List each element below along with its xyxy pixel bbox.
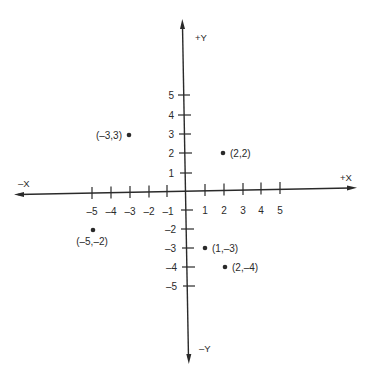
x-axis-right-arrow-icon (347, 186, 357, 191)
x-tick-label: 4 (258, 205, 264, 216)
y-tick-label: 2 (168, 148, 174, 159)
point-dot-icon (91, 228, 96, 233)
point-dot-icon (221, 151, 226, 156)
pos-y-axis-label: +Y (195, 32, 208, 43)
y-tick-label: –2 (165, 224, 177, 235)
coordinate-plane: –5 –4 –3 –2 –1 1 2 3 4 5 5 4 3 2 1 –2 –3… (0, 0, 371, 377)
point-label: (–3,3) (96, 130, 122, 141)
x-tick-label: 5 (277, 205, 283, 216)
point-1-neg3: (1,–3) (203, 243, 238, 254)
x-tick-label: –1 (162, 206, 174, 217)
x-tick-label: 1 (202, 205, 208, 216)
y-tick-label: 1 (168, 168, 174, 179)
neg-y-axis-label: –Y (199, 343, 211, 354)
point-dot-icon (203, 246, 208, 251)
y-tick-label: 4 (168, 110, 174, 121)
y-tick-label: –4 (166, 262, 178, 273)
x-tick-label: 2 (221, 205, 227, 216)
x-axis-left-arrow-icon (14, 192, 24, 197)
neg-x-axis-label: –X (18, 178, 30, 189)
point-dot-icon (127, 133, 132, 138)
point-2-neg4: (2,–4) (223, 262, 258, 273)
x-tick-label: –2 (143, 206, 155, 217)
y-tick-label: –5 (166, 281, 178, 292)
y-axis-bottom-arrow-icon (186, 354, 191, 364)
x-tick-label: 3 (240, 205, 246, 216)
y-tick-label: 5 (168, 90, 174, 101)
point-label: (1,–3) (212, 243, 238, 254)
point-dot-icon (223, 265, 228, 270)
point-neg3-3: (–3,3) (96, 130, 131, 141)
y-axis-top-arrow-icon (180, 19, 185, 29)
x-tick-label: –5 (86, 206, 98, 217)
pos-x-axis-label: +X (340, 172, 353, 183)
y-tick-label: –3 (165, 243, 177, 254)
point-label: (2,–4) (232, 262, 258, 273)
point-label: (2,2) (230, 148, 251, 159)
point-2-2: (2,2) (221, 148, 251, 159)
y-tick-label: 3 (168, 129, 174, 140)
x-tick-label: –3 (124, 206, 136, 217)
point-neg5-neg2: (–5,–2) (76, 228, 108, 247)
point-label: (–5,–2) (76, 236, 108, 247)
x-tick-label: –4 (105, 206, 117, 217)
x-tick-labels: –5 –4 –3 –2 –1 1 2 3 4 5 (86, 205, 283, 217)
